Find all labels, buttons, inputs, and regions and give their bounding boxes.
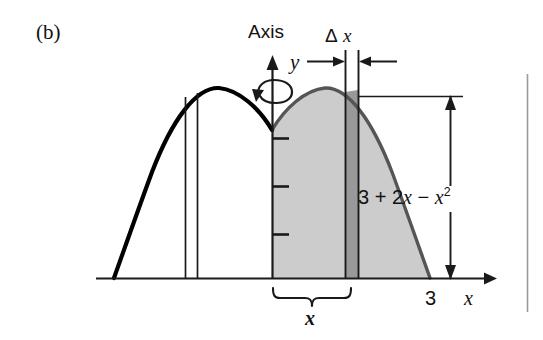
height-var-1: x xyxy=(403,186,412,208)
rotation-arrow-icon xyxy=(258,80,292,103)
x-axis-label: x xyxy=(464,288,473,308)
panel-label: (b) xyxy=(36,22,61,43)
height-var-2: x xyxy=(435,186,444,208)
x-axis-arrowhead xyxy=(484,273,497,285)
y-axis-arrowhead xyxy=(267,55,279,70)
height-minus: − xyxy=(412,186,435,208)
y-axis-label: y xyxy=(290,52,299,73)
delta-x-arrowhead-right xyxy=(359,57,371,67)
delta-x-variable: x xyxy=(343,25,351,46)
height-expression-label: 3 + 2x − x2 xyxy=(358,186,451,207)
revolution-solid-diagram xyxy=(0,0,543,340)
delta-x-arrowhead-left xyxy=(333,57,345,67)
mirrored-parabola-curve xyxy=(114,88,272,278)
delta-symbol: Δ xyxy=(325,25,338,46)
radius-brace-label: x xyxy=(305,308,315,328)
delta-x-slice-fill xyxy=(345,90,358,278)
height-lead: 3 + 2 xyxy=(358,186,403,208)
height-exponent: 2 xyxy=(444,185,451,199)
x-tick-label-3: 3 xyxy=(425,288,436,308)
axis-label: Axis xyxy=(248,22,284,41)
radius-brace xyxy=(273,288,351,306)
figure-panel-b: (b) Axis y Δ x 3 + 2x − x2 3 x x xyxy=(0,0,543,340)
delta-x-label: Δ x xyxy=(325,26,351,45)
